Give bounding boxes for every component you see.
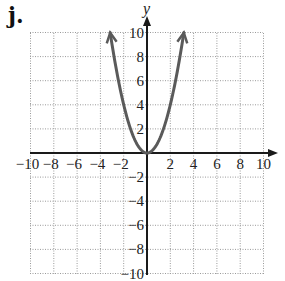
x-tick-label: −10 xyxy=(16,157,39,172)
x-tick-label: −4 xyxy=(89,157,105,172)
x-tick-label: 4 xyxy=(190,157,198,172)
y-tick-label: 2 xyxy=(137,122,145,137)
y-tick-label: 6 xyxy=(137,74,145,89)
axes xyxy=(30,16,278,275)
plot-area xyxy=(0,0,285,281)
x-tick-label: 6 xyxy=(213,157,221,172)
y-tick-label: 4 xyxy=(137,98,145,113)
y-tick-label: 8 xyxy=(137,50,145,65)
x-tick-label: 10 xyxy=(256,157,271,172)
x-tick-label: 8 xyxy=(236,157,244,172)
x-tick-label: −2 xyxy=(113,157,129,172)
y-axis-arrow-icon xyxy=(143,16,151,26)
x-tick-label: −6 xyxy=(66,157,82,172)
y-tick-label: −8 xyxy=(128,242,144,257)
x-tick-label: 2 xyxy=(167,157,175,172)
y-tick-label: 10 xyxy=(129,26,144,41)
y-tick-label: −10 xyxy=(121,267,144,281)
x-tick-label: −8 xyxy=(43,157,59,172)
y-tick-label: −6 xyxy=(128,218,144,233)
y-tick-label: −2 xyxy=(128,170,144,185)
y-tick-label: −4 xyxy=(128,194,144,209)
